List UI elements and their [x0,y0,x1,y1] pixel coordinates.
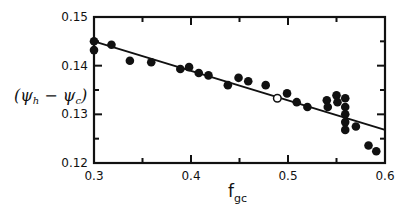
filled-data-point [194,69,203,78]
filled-data-point [126,57,135,66]
fit-line [94,41,385,130]
filled-data-point [333,98,342,107]
plot-border [94,17,385,163]
x-tick-label: 0.5 [278,169,297,183]
filled-data-point [341,126,350,135]
y-tick-label: 0.15 [61,10,88,24]
filled-data-point [107,40,116,49]
scatter-chart: 0.30.40.50.60.120.130.140.15 (ψh − ψc) f… [0,0,408,209]
filled-data-point [341,118,350,127]
filled-data-point [176,65,185,74]
filled-data-point [372,147,381,156]
x-tick-label: 0.4 [181,169,200,183]
data-points [90,37,381,156]
filled-data-point [224,81,233,90]
filled-data-point [341,94,350,103]
filled-data-point [90,37,99,46]
axis-ticks [94,17,385,163]
filled-data-point [364,141,373,150]
filled-data-point [303,103,312,112]
filled-data-point [352,122,361,131]
filled-data-point [147,58,156,67]
filled-data-point [90,46,99,55]
x-tick-label: 0.6 [375,169,394,183]
filled-data-point [292,98,301,107]
regression-line [94,41,385,130]
plot-frame [94,17,385,163]
y-tick-label: 0.13 [61,107,88,121]
filled-data-point [244,77,253,86]
filled-data-point [234,74,243,83]
filled-data-point [261,81,270,90]
y-tick-label: 0.12 [61,156,88,170]
x-axis-label: fgc [228,181,247,205]
y-tick-label: 0.14 [61,59,88,73]
x-tick-label: 0.3 [84,169,103,183]
filled-data-point [283,89,292,98]
filled-data-point [341,110,350,119]
filled-data-point [204,71,213,80]
filled-data-point [323,103,332,112]
filled-data-point [185,63,194,72]
open-data-point [274,94,282,102]
y-axis-label: (ψh − ψc) [14,86,87,106]
